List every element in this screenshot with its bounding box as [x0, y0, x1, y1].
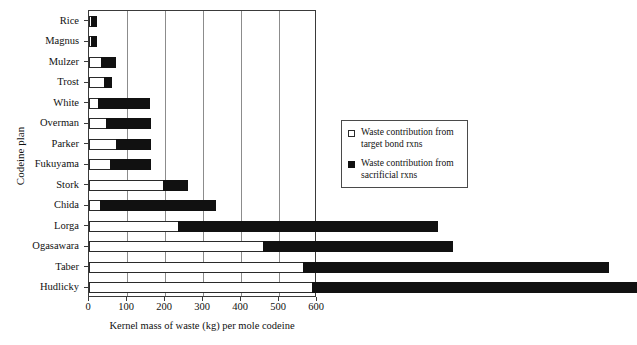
y-tick-label-taber: Taber — [0, 261, 84, 272]
legend-swatch-target-icon — [348, 130, 355, 137]
bar-segment-sacrificial — [91, 16, 98, 27]
bar-segment-target-bond — [89, 139, 117, 150]
legend-entry: Waste contribution from target bond rxns — [348, 127, 461, 150]
y-tick-mark — [84, 184, 88, 185]
y-tick-mark — [84, 82, 88, 83]
bar-segment-sacrificial — [104, 77, 112, 88]
y-tick-mark — [84, 205, 88, 206]
bar-segment-target-bond — [89, 221, 179, 232]
bar-segment-target-bond — [89, 262, 304, 273]
y-tick-mark — [84, 225, 88, 226]
bar-segment-target-bond — [89, 180, 164, 191]
bar-segment-sacrificial — [312, 282, 637, 293]
y-tick-label-magnus: Magnus — [0, 35, 84, 46]
bar-segment-target-bond — [89, 159, 111, 170]
bar-segment-sacrificial — [106, 118, 151, 129]
bar-segment-sacrificial — [178, 221, 439, 232]
bar-segment-sacrificial — [163, 180, 188, 191]
bar-segment-sacrificial — [263, 241, 453, 252]
bar-series-group — [89, 11, 315, 296]
bar-segment-sacrificial — [303, 262, 609, 273]
bar-segment-target-bond — [89, 282, 313, 293]
y-tick-mark — [84, 164, 88, 165]
bar-segment-sacrificial — [98, 98, 150, 109]
legend-label: Waste contribution from target bond rxns — [361, 127, 461, 150]
y-tick-label-mulzer: Mulzer — [0, 56, 84, 67]
y-tick-label-fukuyama: Fukuyama — [0, 158, 84, 169]
legend-entry: Waste contribution from sacrificial rxns — [348, 158, 461, 181]
bar-segment-target-bond — [89, 77, 105, 88]
x-tick-label-0: 0 — [68, 301, 108, 312]
x-tick-label-600: 600 — [296, 301, 336, 312]
y-tick-mark — [84, 287, 88, 288]
x-tick-label-300: 300 — [182, 301, 222, 312]
x-tick-label-100: 100 — [106, 301, 146, 312]
bar-segment-sacrificial — [101, 57, 116, 68]
y-tick-label-stork: Stork — [0, 179, 84, 190]
x-tick-label-200: 200 — [144, 301, 184, 312]
bar-segment-sacrificial — [110, 159, 151, 170]
y-tick-mark — [84, 246, 88, 247]
y-tick-label-rice: Rice — [0, 15, 84, 26]
legend-label: Waste contribution from sacrificial rxns — [361, 158, 461, 181]
y-tick-mark — [84, 143, 88, 144]
y-tick-label-lorga: Lorga — [0, 220, 84, 231]
y-tick-mark — [84, 102, 88, 103]
y-tick-label-hudlicky: Hudlicky — [0, 281, 84, 292]
y-tick-label-white: White — [0, 97, 84, 108]
y-tick-mark — [84, 266, 88, 267]
bar-segment-sacrificial — [116, 139, 151, 150]
y-tick-label-overman: Overman — [0, 117, 84, 128]
y-tick-mark — [84, 61, 88, 62]
bar-segment-target-bond — [89, 241, 264, 252]
bar-segment-sacrificial — [100, 200, 216, 211]
bar-segment-target-bond — [89, 118, 107, 129]
y-tick-label-parker: Parker — [0, 138, 84, 149]
bar-segment-sacrificial — [91, 36, 98, 47]
y-tick-mark — [84, 123, 88, 124]
legend: Waste contribution from target bond rxns… — [341, 120, 468, 188]
y-tick-label-chida: Chida — [0, 199, 84, 210]
y-tick-mark — [84, 20, 88, 21]
x-tick-label-400: 400 — [220, 301, 260, 312]
y-tick-label-trost: Trost — [0, 76, 84, 87]
y-tick-mark — [84, 41, 88, 42]
legend-swatch-sacrificial-icon — [348, 161, 355, 168]
x-tick-label-500: 500 — [258, 301, 298, 312]
plot-area — [88, 10, 316, 297]
x-axis-title: Kernel mass of waste (kg) per mole codei… — [88, 320, 316, 331]
y-tick-label-ogasawara: Ogasawara — [0, 240, 84, 251]
